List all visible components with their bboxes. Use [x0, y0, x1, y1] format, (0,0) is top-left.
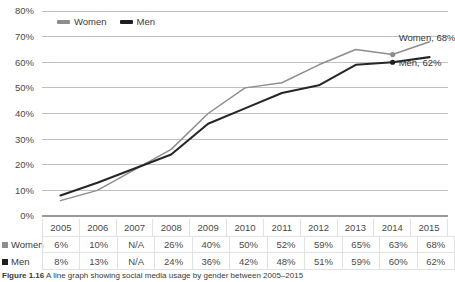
table-cell: 51% — [305, 253, 342, 270]
table-cell: 24% — [155, 253, 192, 270]
table-cell: 52% — [268, 236, 305, 253]
x-axis-label-2006: 2006 — [80, 219, 117, 236]
x-axis-label-2013: 2013 — [338, 219, 375, 236]
end-label-men: Men, 62% — [399, 57, 442, 68]
series-line-men — [60, 57, 429, 195]
end-label-women: Women, 68% — [399, 32, 455, 43]
x-axis-label-2014: 2014 — [374, 219, 411, 236]
table-cell: 40% — [193, 236, 230, 253]
y-axis-tick-20%: 20% — [15, 159, 35, 170]
table-cell: 62% — [418, 253, 455, 270]
series-line-women — [60, 42, 429, 201]
table-row-label-women: Women — [11, 239, 44, 250]
caption-text: A line graph showing social media usage … — [46, 271, 303, 280]
table-cell: 8% — [42, 253, 80, 270]
y-axis-tick-80%: 80% — [15, 5, 35, 16]
x-axis-label-2012: 2012 — [301, 219, 338, 236]
figure-caption: Figure 1.16 A line graph showing social … — [2, 271, 455, 280]
x-axis-label-2015: 2015 — [411, 219, 448, 236]
x-axis-label-2009: 2009 — [190, 219, 227, 236]
legend-item-women: Women — [57, 17, 107, 27]
legend-item-men: Men — [120, 17, 155, 27]
y-axis-tick-30%: 30% — [15, 134, 35, 145]
y-axis-tick-50%: 50% — [15, 82, 35, 93]
table-row-men: Men 8%13%N/A24%36%42%48%51%59%60%62% — [0, 253, 455, 270]
figure: 0%10%20%30%40%50%60%70%80%Women, 68%Men,… — [0, 0, 455, 282]
table-cell: 48% — [268, 253, 305, 270]
table-cell: 10% — [80, 236, 117, 253]
table-row-women: Women 6%10%N/A26%40%50%52%59%65%63%68% — [0, 236, 455, 253]
table-row-label-men: Men — [11, 256, 29, 267]
x-axis-label-2005: 2005 — [42, 219, 80, 236]
table-cell: 36% — [193, 253, 230, 270]
table-cell: 59% — [305, 236, 342, 253]
legend-label-men: Men — [137, 17, 155, 27]
table-cell: 68% — [418, 236, 455, 253]
legend-swatch-men-icon — [120, 20, 133, 24]
table-rowhead-women: Women — [0, 239, 42, 250]
x-axis-labels: 2005200620072008200920102011201220132014… — [42, 219, 448, 236]
y-axis-tick-70%: 70% — [15, 31, 35, 42]
table-cell: 50% — [230, 236, 267, 253]
table-cell: 65% — [343, 236, 380, 253]
table-cell: 13% — [80, 253, 117, 270]
legend-label-women: Women — [74, 17, 107, 27]
table-rowhead-men: Men — [0, 256, 42, 267]
caption-label: Figure 1.16 — [2, 271, 44, 280]
table-cell: N/A — [118, 253, 155, 270]
y-axis-tick-10%: 10% — [15, 185, 35, 196]
y-axis-tick-40%: 40% — [15, 108, 35, 119]
chart-canvas: 0%10%20%30%40%50%60%70%80%Women, 68%Men,… — [0, 0, 455, 222]
table-cell: 59% — [343, 253, 380, 270]
y-axis-tick-60%: 60% — [15, 57, 35, 68]
x-axis-label-2011: 2011 — [264, 219, 301, 236]
chart-legend: Women Men — [57, 15, 155, 29]
table-cell: 63% — [380, 236, 417, 253]
table-cell: 60% — [380, 253, 417, 270]
data-point-marker-men — [390, 60, 395, 65]
y-axis-tick-0%: 0% — [20, 210, 34, 221]
legend-swatch-women-icon — [57, 20, 70, 24]
marker-square-men-icon — [2, 259, 8, 265]
table-cells-women: 6%10%N/A26%40%50%52%59%65%63%68% — [42, 236, 455, 253]
line-chart: 0%10%20%30%40%50%60%70%80%Women, 68%Men,… — [0, 0, 455, 222]
table-cell: N/A — [118, 236, 155, 253]
data-table: Women 6%10%N/A26%40%50%52%59%65%63%68% M… — [0, 236, 455, 270]
x-axis-label-2010: 2010 — [227, 219, 264, 236]
x-axis-label-2007: 2007 — [117, 219, 154, 236]
table-cell: 6% — [42, 236, 80, 253]
table-cell: 26% — [155, 236, 192, 253]
table-cell: 42% — [230, 253, 267, 270]
x-axis-label-2008: 2008 — [153, 219, 190, 236]
marker-square-women-icon — [2, 242, 8, 248]
table-cells-men: 8%13%N/A24%36%42%48%51%59%60%62% — [42, 253, 455, 270]
data-point-marker-women — [390, 52, 395, 57]
